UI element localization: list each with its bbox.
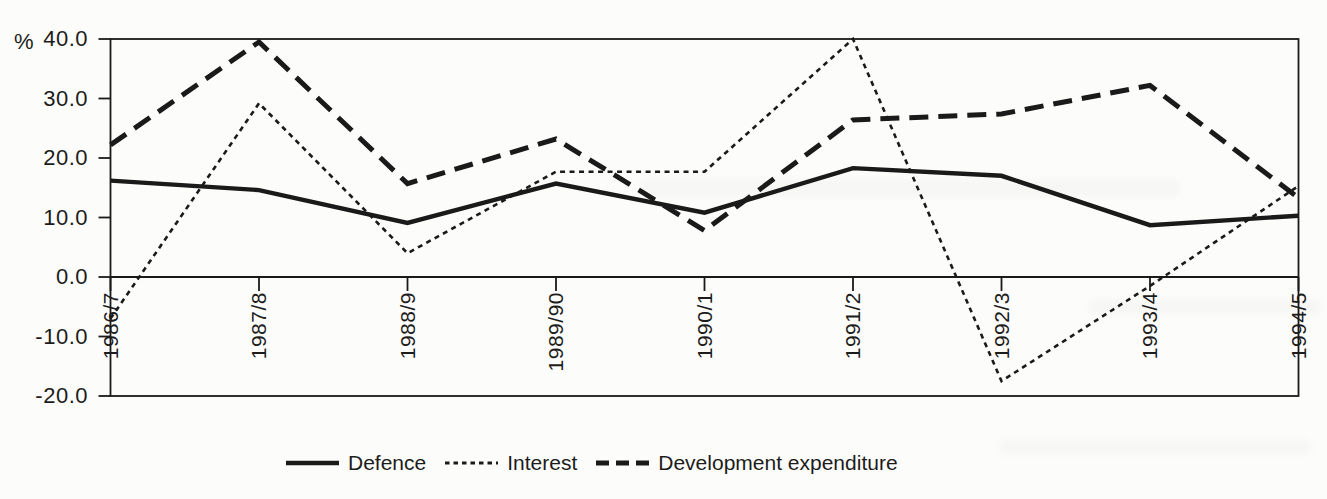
- legend-label: Defence: [348, 451, 426, 475]
- legend-item-development-expenditure: Development expenditure: [596, 451, 897, 475]
- x-axis-tick-label: 1990/1: [693, 292, 716, 359]
- legend-item-defence: Defence: [286, 451, 426, 475]
- y-axis-tick-label: -20.0: [0, 385, 88, 407]
- scanned-line-chart-page: % 40.030.020.010.00.0-10.0-20.0 1986/719…: [0, 0, 1327, 499]
- x-axis-tick-label: 1994/5: [1287, 292, 1310, 359]
- solid-line-swatch-icon: [286, 458, 339, 468]
- series-line-development-expenditure: [111, 42, 1299, 231]
- y-axis-tick-label: 20.0: [0, 147, 88, 169]
- x-axis-tick-label: 1988/9: [396, 292, 419, 359]
- x-axis-tick-label: 1993/4: [1138, 292, 1161, 359]
- legend-label: Development expenditure: [658, 451, 897, 475]
- plot-area: [0, 0, 1327, 440]
- y-axis-tick-label: 30.0: [0, 88, 88, 110]
- x-axis-tick-label: 1992/3: [990, 292, 1013, 359]
- legend-item-interest: Interest: [445, 451, 577, 475]
- y-axis-tick-label: -10.0: [0, 326, 88, 348]
- x-axis-tick-label: 1986/7: [99, 292, 122, 359]
- y-axis-tick-label: 40.0: [0, 28, 88, 50]
- chart-legend: DefenceInterestDevelopment expenditure: [286, 449, 898, 477]
- x-axis-tick-label: 1987/8: [247, 292, 270, 359]
- y-axis-tick-label: 10.0: [0, 207, 88, 229]
- y-axis-tick-label: 0.0: [0, 266, 88, 288]
- x-axis-tick-label: 1989/90: [544, 292, 567, 371]
- legend-label: Interest: [507, 451, 577, 475]
- scan-bleedthrough-smudge: [1000, 440, 1310, 454]
- dashed-line-swatch-icon: [596, 458, 649, 468]
- x-axis-tick-label: 1991/2: [841, 292, 864, 359]
- dotted-line-swatch-icon: [445, 458, 498, 468]
- series-line-defence: [111, 168, 1299, 225]
